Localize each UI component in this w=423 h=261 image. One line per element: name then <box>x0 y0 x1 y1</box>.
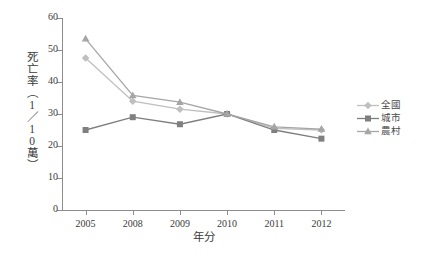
series-農村 <box>82 35 325 132</box>
series-line <box>86 114 322 139</box>
x-axis-title: 年分 <box>62 228 345 244</box>
y-tick-label: 20 <box>48 139 58 151</box>
data-point-square <box>130 114 136 120</box>
series-layer <box>62 18 345 210</box>
legend-swatch-diamond-icon <box>357 100 379 111</box>
legend-item-城市[interactable]: 城市 <box>357 113 419 124</box>
x-tick-mark <box>180 210 181 215</box>
y-tick-label: 0 <box>53 203 58 215</box>
legend-item-全國[interactable]: 全國 <box>357 100 419 111</box>
legend-label: 全國 <box>379 100 401 111</box>
y-tick-label: 60 <box>48 11 58 23</box>
y-axis-title: 死亡率（1／10萬） <box>16 46 38 176</box>
legend-swatch-triangle-icon <box>357 126 379 137</box>
data-point-square <box>83 127 89 133</box>
legend-item-農村[interactable]: 農村 <box>357 126 419 137</box>
x-tick-mark <box>86 210 87 215</box>
data-point-square <box>365 116 371 122</box>
x-axis-line <box>62 210 345 211</box>
series-城市 <box>83 111 325 142</box>
y-tick-label: 50 <box>48 43 58 55</box>
data-point-square <box>177 121 183 127</box>
data-point-diamond <box>176 105 184 113</box>
legend-label: 農村 <box>379 126 401 137</box>
series-line <box>86 39 322 129</box>
legend-label: 城市 <box>379 113 401 124</box>
data-point-diamond <box>364 102 372 110</box>
series-全國 <box>82 54 325 134</box>
data-point-triangle <box>82 35 90 42</box>
data-point-square <box>318 136 324 142</box>
y-tick-label: 10 <box>48 171 58 183</box>
x-tick-mark <box>274 210 275 215</box>
x-tick-mark <box>321 210 322 215</box>
line-chart: 死亡率（1／10萬） 0102030405060 200520082009201… <box>0 0 423 261</box>
legend-swatch-square-icon <box>357 113 379 124</box>
x-tick-mark <box>133 210 134 215</box>
plot-area: 0102030405060 200520082009201020112012 <box>62 18 345 210</box>
y-tick-label: 40 <box>48 75 58 87</box>
chart-legend: 全國城市農村 <box>357 100 419 139</box>
x-tick-mark <box>227 210 228 215</box>
y-tick-label: 30 <box>48 107 58 119</box>
